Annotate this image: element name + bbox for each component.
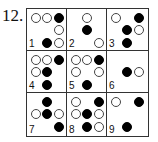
- white-circle-icon: [71, 109, 81, 119]
- white-circle-icon: [134, 67, 144, 77]
- white-circle-icon: [71, 55, 81, 65]
- black-circle-icon: [82, 25, 92, 35]
- cell-label: 7: [29, 124, 35, 135]
- cell-label: 8: [69, 124, 75, 135]
- white-circle-icon: [31, 67, 41, 77]
- white-circle-icon: [94, 67, 104, 77]
- white-circle-icon: [94, 122, 104, 132]
- white-circle-icon: [111, 97, 121, 107]
- white-circle-icon: [54, 109, 64, 119]
- cell-label: 5: [69, 80, 75, 91]
- black-circle-icon: [42, 38, 52, 48]
- white-circle-icon: [71, 67, 81, 77]
- white-circle-icon: [82, 55, 92, 65]
- black-circle-icon: [42, 67, 52, 77]
- black-circle-icon: [42, 97, 52, 107]
- black-circle-icon: [82, 109, 92, 119]
- cell-label: 1: [29, 38, 35, 49]
- black-circle-icon: [82, 80, 92, 90]
- puzzle-cell-6[interactable]: 6: [107, 51, 148, 93]
- white-circle-icon: [94, 38, 104, 48]
- puzzle-cell-4[interactable]: 4: [27, 51, 67, 93]
- white-circle-icon: [54, 38, 64, 48]
- black-circle-icon: [134, 97, 144, 107]
- black-circle-icon: [42, 109, 52, 119]
- black-circle-icon: [54, 13, 64, 23]
- black-circle-icon: [134, 13, 144, 23]
- white-circle-icon: [94, 109, 104, 119]
- black-circle-icon: [122, 122, 132, 132]
- black-circle-icon: [94, 55, 104, 65]
- white-circle-icon: [54, 25, 64, 35]
- white-circle-icon: [82, 13, 92, 23]
- black-circle-icon: [122, 38, 132, 48]
- puzzle-cell-9[interactable]: 9: [107, 93, 148, 136]
- white-circle-icon: [111, 13, 121, 23]
- white-circle-icon: [42, 55, 52, 65]
- black-circle-icon: [42, 80, 52, 90]
- puzzle-cell-7[interactable]: 7: [27, 93, 67, 136]
- white-circle-icon: [71, 97, 81, 107]
- cell-label: 3: [109, 38, 115, 49]
- white-circle-icon: [31, 109, 41, 119]
- puzzle-cell-8[interactable]: 8: [67, 93, 107, 136]
- black-circle-icon: [82, 122, 92, 132]
- puzzle-cell-5[interactable]: 5: [67, 51, 107, 93]
- white-circle-icon: [134, 25, 144, 35]
- black-circle-icon: [54, 122, 64, 132]
- black-circle-icon: [94, 97, 104, 107]
- puzzle-cell-2[interactable]: 2: [67, 9, 107, 51]
- black-circle-icon: [54, 55, 64, 65]
- puzzle-cell-3[interactable]: 3: [107, 9, 148, 51]
- white-circle-icon: [31, 55, 41, 65]
- cell-label: 2: [69, 38, 75, 49]
- white-circle-icon: [31, 13, 41, 23]
- cell-label: 6: [109, 80, 115, 91]
- puzzle-grid: 123456789: [26, 8, 149, 137]
- cell-label: 9: [109, 124, 115, 135]
- white-circle-icon: [42, 13, 52, 23]
- black-circle-icon: [122, 25, 132, 35]
- cell-label: 4: [29, 80, 35, 91]
- black-circle-icon: [122, 67, 132, 77]
- puzzle-cell-1[interactable]: 1: [27, 9, 67, 51]
- problem-number: 12.: [2, 6, 23, 26]
